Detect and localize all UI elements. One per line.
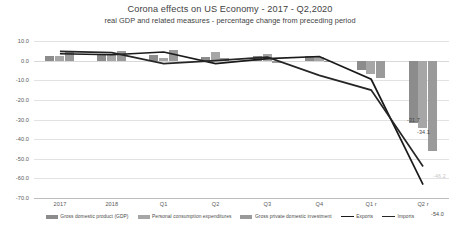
y-axis-tick-label: 10.0 [18,38,29,44]
legend-swatch-icon [46,215,58,219]
x-axis-tick-label: 2017 [54,201,67,207]
y-axis-tick-label: -50.0 [16,156,29,162]
y-axis-tick-label: -10.0 [16,77,29,83]
line-series [60,51,423,166]
legend-item[interactable]: Imports [382,214,414,219]
chart-title: Corona effects on US Economy - 2017 - Q2… [0,3,460,15]
y-axis-tick-label: 0.0 [21,58,29,64]
y-axis-tick-label: -60.0 [16,175,29,181]
y-axis-tick-label: -20.0 [16,97,29,103]
chart-title-block: Corona effects on US Economy - 2017 - Q2… [0,3,460,26]
chart-legend: Gross domestic product (GDP)Personal con… [0,214,460,219]
x-axis-tick-label: Q4 [315,201,323,207]
legend-item[interactable]: Personal consumption expenditures [138,214,232,219]
x-axis-tick-label: Q1 [160,201,168,207]
legend-line-icon [341,216,354,218]
legend-label: Gross domestic product (GDP) [60,214,128,219]
x-axis-tick-label: 2018 [105,201,118,207]
x-axis-labels: 20172018Q1Q2Q3Q4Q1 rQ2 r [34,199,449,213]
x-axis-tick-label: Q3 [264,201,272,207]
y-axis-tick-label: -30.0 [16,117,29,123]
data-label: -46.2 [433,173,446,179]
legend-swatch-icon [138,215,150,219]
legend-item[interactable]: Gross domestic product (GDP) [46,214,129,219]
line-series [60,52,423,185]
legend-swatch-icon [240,215,252,219]
y-axis-labels: 10.00.0-10.0-20.0-30.0-40.0-50.0-60.0-70… [0,41,32,198]
chart-container: Corona effects on US Economy - 2017 - Q2… [0,0,460,236]
legend-item[interactable]: Exports [341,214,373,219]
x-axis-tick-label: Q1 r [366,201,377,207]
x-axis-tick-label: Q2 r [417,201,428,207]
data-label: -31.7 [407,117,420,123]
chart-subtitle: real GDP and related measures - percenta… [0,15,460,26]
y-axis-tick-label: -70.0 [16,195,29,201]
legend-label: Personal consumption expenditures [152,214,231,219]
legend-item[interactable]: Gross private domestic investment [240,214,331,219]
y-axis-tick-label: -40.0 [16,136,29,142]
data-label: -34.1 [417,129,430,135]
legend-label: Gross private domestic investment [255,214,332,219]
plot-area: -31.7-34.1-46.2-54.0-63.2 [34,41,449,198]
legend-line-icon [382,216,395,218]
legend-label: Imports [398,214,415,219]
line-series-layer [34,41,449,198]
legend-label: Exports [356,214,373,219]
x-axis-tick-label: Q2 [212,201,220,207]
